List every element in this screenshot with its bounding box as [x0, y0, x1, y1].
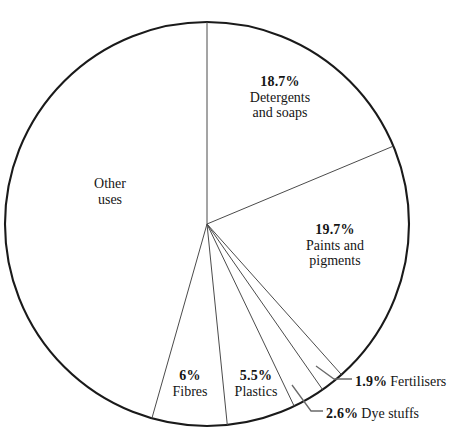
slice-label-detergents: 18.7% Detergents and soaps [228, 74, 332, 121]
slice-name-detergents-line1: Detergents [228, 90, 332, 106]
slice-name-other-line2: uses [79, 192, 141, 208]
slice-name-fibres: Fibres [166, 384, 214, 400]
slice-name-paints-line2: pigments [283, 253, 387, 269]
slice-name-detergents-line2: and soaps [228, 105, 332, 121]
slice-label-dyestuffs: 2.6%Dye stuffs [326, 406, 419, 422]
slice-label-fibres: 6% Fibres [166, 368, 214, 399]
slice-name-plastics: Plastics [226, 384, 286, 400]
slice-name-dyestuffs: Dye stuffs [361, 406, 419, 421]
slice-percent-plastics: 5.5% [226, 368, 286, 384]
slice-percent-detergents: 18.7% [228, 74, 332, 90]
slice-label-plastics: 5.5% Plastics [226, 368, 286, 399]
slice-name-paints-line1: Paints and [283, 238, 387, 254]
slice-label-other-uses: Other uses [79, 176, 141, 207]
slice-name-other-line1: Other [79, 176, 141, 192]
slice-label-paints: 19.7% Paints and pigments [283, 222, 387, 269]
slice-percent-paints: 19.7% [283, 222, 387, 238]
slice-label-fertilisers: 1.9%Fertilisers [355, 374, 446, 390]
slice-name-fertilisers: Fertilisers [390, 374, 446, 389]
slice-percent-fertilisers: 1.9% [355, 374, 387, 389]
slice-percent-dyestuffs: 2.6% [326, 406, 358, 421]
slice-percent-fibres: 6% [166, 368, 214, 384]
pie-chart-figure: 18.7% Detergents and soaps 19.7% Paints … [0, 0, 464, 448]
